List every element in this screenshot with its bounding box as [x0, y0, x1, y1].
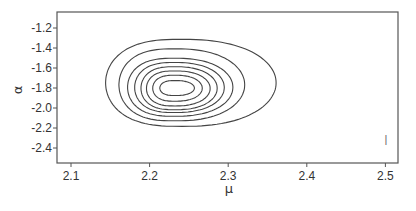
y-tick-label: -2.0 [31, 101, 52, 115]
y-tick-label: -1.2 [31, 21, 52, 35]
x-tick-label: 2.1 [63, 169, 80, 183]
x-tick-label: 2.5 [377, 169, 394, 183]
y-axis-label: α [10, 86, 25, 95]
y-tick-label: -1.8 [31, 81, 52, 95]
annotation-mark: | [385, 133, 388, 145]
y-tick-label: -2.4 [31, 141, 52, 155]
x-axis-label: μ [225, 181, 233, 196]
y-tick-label: -2.2 [31, 121, 52, 135]
x-axis-ticks: 2.12.22.32.42.5 [63, 163, 394, 183]
y-tick-label: -1.6 [31, 61, 52, 75]
contour-plot: 2.12.22.32.42.5 -1.2-1.4-1.6-1.8-2.0-2.2… [0, 0, 416, 211]
x-tick-label: 2.4 [298, 169, 315, 183]
y-axis-ticks: -1.2-1.4-1.6-1.8-2.0-2.2-2.4 [31, 21, 57, 155]
contour-ring [135, 63, 225, 113]
x-tick-label: 2.2 [141, 169, 158, 183]
contour-ring [160, 81, 195, 96]
y-tick-label: -1.4 [31, 41, 52, 55]
plot-frame [57, 12, 398, 163]
contour-lines [106, 39, 277, 126]
